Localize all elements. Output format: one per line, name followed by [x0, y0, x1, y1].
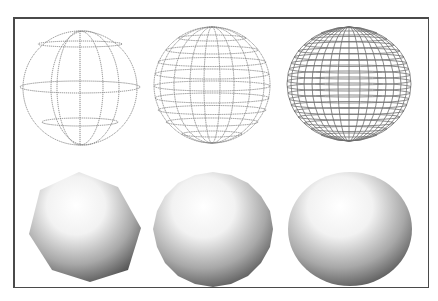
wireframe-sphere-high	[287, 27, 411, 141]
spheres-canvas	[0, 0, 438, 301]
shaded-sphere-high	[288, 172, 412, 286]
shaded-sphere-medium	[153, 172, 273, 287]
shaded-sphere-low	[29, 172, 141, 282]
wireframe-sphere-medium	[154, 27, 270, 143]
wireframe-sphere-low	[20, 31, 140, 145]
